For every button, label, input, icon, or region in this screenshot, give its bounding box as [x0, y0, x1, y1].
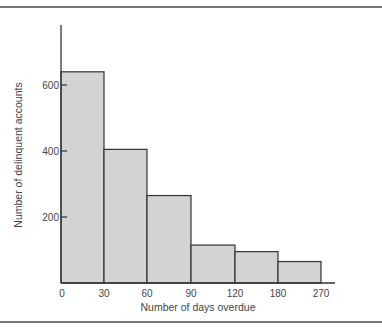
bar-30-60 [104, 149, 147, 283]
x-tick-label: 90 [185, 288, 197, 299]
x-tick-label: 0 [59, 288, 65, 299]
y-tick-label: 200 [42, 212, 59, 223]
bar-120-180 [235, 252, 278, 283]
x-axis-label: Number of days overdue [141, 301, 256, 313]
bars-group [61, 72, 321, 283]
bar-0-30 [61, 72, 104, 283]
x-tick-label: 60 [141, 288, 153, 299]
bar-90-120 [191, 245, 235, 283]
x-tick-label: 30 [98, 288, 110, 299]
y-tick-label: 600 [42, 80, 59, 91]
y-tick-label: 400 [42, 146, 59, 157]
histogram-chart: 200400600 0306090120180270 Number of day… [0, 0, 382, 333]
bar-60-90 [147, 196, 191, 283]
bar-180-270 [278, 262, 321, 283]
x-tick-label: 120 [227, 288, 244, 299]
x-tick-label: 180 [270, 288, 287, 299]
x-ticks: 0306090120180270 [59, 288, 330, 299]
x-tick-label: 270 [313, 288, 330, 299]
y-axis-label: Number of delinquent accounts [12, 82, 24, 227]
